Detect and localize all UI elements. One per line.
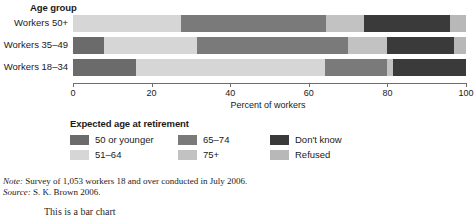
x-axis-tick-label: 0 — [70, 88, 75, 98]
bar-segment — [325, 59, 388, 76]
bar-segment — [326, 15, 363, 32]
x-axis-tick-label: 60 — [304, 88, 314, 98]
legend-item-label: 50 or younger — [95, 134, 154, 145]
x-axis-tick — [152, 83, 153, 87]
figure-notes: Note: Survey of 1,053 workers 18 and ove… — [3, 176, 247, 198]
bar-segment — [104, 37, 196, 54]
note-label: Note: — [3, 176, 23, 186]
legend: Expected age at retirement 50 or younger… — [70, 118, 370, 162]
legend-item[interactable]: 65–74 — [178, 134, 270, 145]
x-axis-tick-label: 20 — [147, 88, 157, 98]
x-axis-tick — [466, 83, 467, 87]
legend-item[interactable]: 75+ — [178, 149, 270, 160]
legend-item-label: Don't know — [295, 134, 342, 145]
x-axis-tick — [230, 83, 231, 87]
table-row — [73, 59, 466, 76]
x-axis-tick-label: 100 — [458, 88, 473, 98]
note-text: Survey of 1,053 workers 18 and over cond… — [23, 176, 247, 186]
bar-segment — [364, 15, 450, 32]
legend-item[interactable]: 51–64 — [70, 149, 178, 160]
x-axis-tick — [387, 83, 388, 87]
bar-segment — [454, 37, 466, 54]
legend-item-label: 65–74 — [203, 134, 229, 145]
note-line: Note: Survey of 1,053 workers 18 and ove… — [3, 176, 247, 187]
x-axis-tick — [73, 83, 74, 87]
bar-segment — [73, 37, 104, 54]
stacked-bar-chart-figure: Age group Workers 50+ Workers 35–49 Work… — [0, 0, 476, 215]
legend-swatch-icon — [270, 150, 289, 160]
x-axis-tick-label: 80 — [382, 88, 392, 98]
legend-swatch-icon — [270, 135, 289, 145]
category-label-workers-35-49: Workers 35–49 — [0, 39, 68, 50]
legend-items: 50 or younger65–74Don't know51–6475+Refu… — [70, 132, 370, 162]
source-label: Source: — [3, 187, 31, 197]
age-group-axis-title: Age group — [30, 2, 77, 13]
bar-segment — [450, 15, 466, 32]
bar-segment — [181, 15, 326, 32]
legend-item[interactable]: Don't know — [270, 134, 370, 145]
bar-segment — [73, 15, 181, 32]
legend-item-label: 51–64 — [95, 149, 121, 160]
bar-segment — [136, 59, 325, 76]
table-row — [73, 15, 466, 32]
legend-item-label: Refused — [295, 149, 330, 160]
source-line: Source: S. K. Brown 2006. — [3, 187, 247, 198]
legend-swatch-icon — [70, 135, 89, 145]
bar-segment — [393, 59, 466, 76]
legend-swatch-icon — [178, 135, 197, 145]
category-label-workers-50-plus: Workers 50+ — [0, 17, 68, 28]
legend-item[interactable]: Refused — [270, 149, 370, 160]
x-axis-label: Percent of workers — [0, 100, 476, 110]
page-bleed-artifact: This is a bar chart — [44, 206, 164, 215]
x-axis-tick-label: 40 — [225, 88, 235, 98]
table-row — [73, 37, 466, 54]
source-text: S. K. Brown 2006. — [31, 187, 101, 197]
legend-swatch-icon — [178, 150, 197, 160]
bar-segment — [387, 37, 454, 54]
bar-segment — [73, 59, 136, 76]
legend-title: Expected age at retirement — [70, 118, 370, 129]
legend-item[interactable]: 50 or younger — [70, 134, 178, 145]
category-label-workers-18-34: Workers 18–34 — [0, 61, 68, 72]
bar-segment — [197, 37, 348, 54]
x-axis-line — [73, 83, 466, 84]
bar-segment — [348, 37, 387, 54]
legend-item-label: 75+ — [203, 149, 219, 160]
plot-area — [73, 13, 466, 83]
x-axis-tick — [309, 83, 310, 87]
legend-swatch-icon — [70, 150, 89, 160]
